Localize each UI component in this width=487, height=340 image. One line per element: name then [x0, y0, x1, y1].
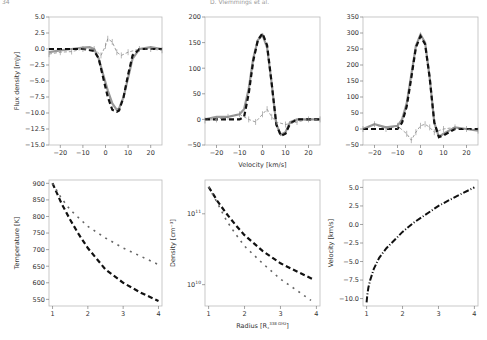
y-tick-label: 2.5 [35, 29, 45, 37]
series-model-B [209, 187, 311, 301]
figure: −20−10010205.02.50.0−2.5−5.0−7.5−10.0−12… [0, 0, 487, 340]
axes-frame [205, 180, 320, 306]
y-tick-label: 0.0 [35, 45, 45, 53]
y-tick-label: −10.0 [339, 295, 359, 303]
chart-panel-bottom-middle: 123410111010Density [cm⁻³]Radius [R*338 … [169, 180, 320, 331]
x-tick-label: 1 [50, 310, 54, 318]
series-model-A [53, 183, 159, 301]
y-tick-label: 850 [33, 196, 45, 204]
y-tick-label: 0 [355, 125, 359, 133]
y-tick-label: −12.5 [25, 125, 45, 133]
x-tick-label: 4 [156, 310, 160, 318]
x-axis-label: Velocity [km/s] [238, 161, 286, 169]
series-observed [49, 47, 162, 110]
y-tick-label: −15.0 [25, 141, 45, 149]
series-model [367, 187, 475, 302]
y-tick-label: 150 [189, 39, 201, 47]
x-tick-label: −10 [391, 149, 405, 157]
y-tick-label: 0.0 [349, 221, 359, 229]
y-tick-label: 750 [33, 229, 45, 237]
y-tick-label: −5.0 [29, 77, 45, 85]
series-model [363, 36, 478, 137]
x-tick-label: 1 [365, 310, 369, 318]
chart-panel-top-left: −20−10010205.02.50.0−2.5−5.0−7.5−10.0−12… [13, 13, 162, 157]
x-tick-label: 3 [436, 310, 440, 318]
y-tick-label: 550 [33, 296, 45, 304]
y-tick-label: 2.5 [349, 202, 359, 210]
x-tick-label: 0 [103, 149, 107, 157]
series-observed [363, 35, 478, 137]
y-tick-label: 350 [347, 13, 359, 21]
x-tick-label: 10 [439, 149, 447, 157]
x-tick-label: −20 [210, 149, 224, 157]
y-tick-label: 5.0 [349, 184, 359, 192]
y-tick-label: 650 [33, 263, 45, 271]
y-tick-label: 1011 [187, 209, 201, 218]
y-tick-label: −10.0 [25, 109, 45, 117]
y-tick-label: 250 [347, 45, 359, 53]
x-tick-label: 10 [124, 149, 132, 157]
y-tick-label: 900 [33, 180, 45, 188]
series-model-A [209, 187, 313, 279]
x-tick-label: 4 [472, 310, 476, 318]
chart-panel-top-right: −20−1001020350300250200150100500−50 [345, 13, 478, 157]
x-tick-label: 10 [281, 149, 289, 157]
x-tick-label: 4 [314, 310, 318, 318]
axes-frame [49, 180, 162, 306]
series-model [205, 33, 320, 135]
y-tick-label: 50 [193, 90, 201, 98]
x-tick-label: −20 [368, 149, 382, 157]
chart-panel-top-middle: −20−1001020200150100500−50Velocity [km/s… [187, 13, 320, 169]
y-tick-label: 300 [347, 29, 359, 37]
y-tick-label: 100 [189, 65, 201, 73]
series-model-B [53, 183, 159, 264]
y-axis-label: Density [cm⁻³] [169, 219, 177, 267]
y-axis-label: Temperature [K] [13, 217, 21, 271]
y-tick-label: 50 [351, 109, 359, 117]
y-tick-label: 600 [33, 279, 45, 287]
x-tick-label: 20 [462, 149, 470, 157]
y-tick-label: 100 [347, 93, 359, 101]
x-tick-label: 20 [304, 149, 312, 157]
x-tick-label: 20 [147, 149, 155, 157]
x-tick-label: 0 [260, 149, 264, 157]
axes-frame [363, 180, 478, 306]
y-tick-label: 5.0 [35, 13, 45, 21]
y-tick-label: −7.5 [29, 93, 45, 101]
y-tick-label: −5.0 [343, 258, 359, 266]
y-tick-label: 700 [33, 246, 45, 254]
y-tick-label: −7.5 [343, 276, 359, 284]
y-tick-label: −50 [187, 141, 201, 149]
y-tick-label: 800 [33, 213, 45, 221]
x-tick-label: 2 [400, 310, 404, 318]
y-tick-label: 1010 [187, 280, 201, 289]
x-tick-label: −10 [76, 149, 90, 157]
y-axis-label: Flux density [mJy] [13, 52, 21, 111]
y-tick-label: 200 [189, 13, 201, 21]
y-axis-label: Velocity [km/s] [327, 219, 335, 267]
y-tick-label: 200 [347, 61, 359, 69]
x-tick-label: 0 [418, 149, 422, 157]
x-tick-label: −20 [53, 149, 67, 157]
y-tick-label: −2.5 [29, 61, 45, 69]
x-tick-label: 2 [86, 310, 90, 318]
chart-panel-bottom-right: 12345.02.50.0−2.5−5.0−7.5−10.0Velocity [… [327, 180, 478, 318]
x-tick-label: 3 [278, 310, 282, 318]
x-tick-label: −10 [233, 149, 247, 157]
chart-panel-bottom-left: 1234900850800750700650600550Temperature … [13, 180, 162, 318]
x-tick-label: 3 [121, 310, 125, 318]
y-tick-label: 0 [197, 116, 201, 124]
x-tick-label: 1 [207, 310, 211, 318]
y-tick-label: −2.5 [343, 239, 359, 247]
x-tick-label: 2 [242, 310, 246, 318]
y-tick-label: −50 [345, 141, 359, 149]
x-axis-label: Radius [R*338 GHz] [236, 321, 289, 331]
y-tick-label: 150 [347, 77, 359, 85]
